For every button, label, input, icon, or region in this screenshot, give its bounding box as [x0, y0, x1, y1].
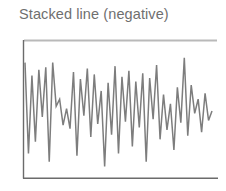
series-line-1: [25, 58, 212, 167]
line-chart-plot: [0, 0, 226, 191]
chart-figure: Stacked line (negative): [0, 0, 226, 191]
